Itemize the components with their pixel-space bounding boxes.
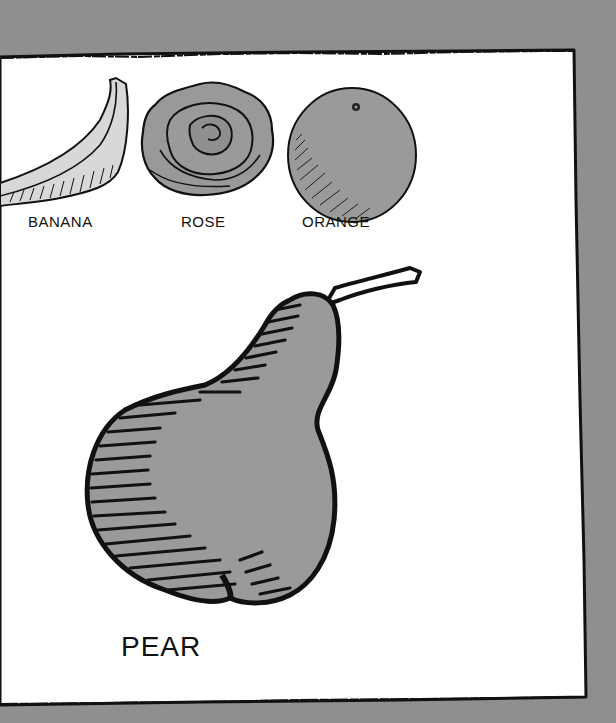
orange-icon	[288, 88, 416, 222]
orange-label: ORANGE	[302, 213, 370, 230]
pear-label: PEAR	[121, 631, 201, 663]
illustration-scene: BANANA ROSE ORANGE PEAR	[0, 0, 616, 723]
banana-label: BANANA	[28, 213, 93, 230]
rose-label: ROSE	[181, 213, 226, 230]
illustration-canvas	[0, 0, 616, 723]
rose-icon	[142, 82, 273, 195]
